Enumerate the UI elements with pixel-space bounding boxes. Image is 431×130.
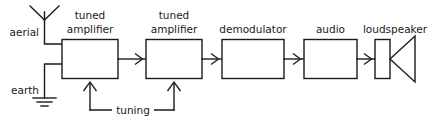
loudspeaker-driver-body bbox=[375, 40, 390, 79]
earth-lead-line bbox=[45, 64, 63, 98]
signal-arrow-4 bbox=[357, 54, 375, 65]
earth-label: earth bbox=[11, 84, 39, 96]
block-demodulator bbox=[222, 40, 284, 79]
block-label-tuned-amplifier-2-line2: amplifier bbox=[151, 23, 198, 35]
aerial-branch-left bbox=[30, 6, 45, 20]
diagram-canvas: aerial earth tuned amplifier tuned ampli… bbox=[0, 0, 431, 130]
block-label-tuned-amplifier-1-line1: tuned bbox=[75, 9, 106, 21]
block-audio bbox=[304, 40, 357, 79]
loudspeaker-cone bbox=[390, 36, 415, 82]
block-tuned-amplifier-1 bbox=[62, 40, 118, 79]
block-label-loudspeaker: loudspeaker bbox=[363, 23, 428, 35]
signal-arrow-1 bbox=[118, 54, 146, 65]
signal-arrow-2 bbox=[202, 54, 222, 65]
aerial-branch-right bbox=[45, 6, 60, 20]
block-tuned-amplifier-2 bbox=[146, 40, 202, 79]
block-loudspeaker bbox=[375, 36, 415, 82]
signal-arrow-3 bbox=[284, 54, 304, 65]
aerial-label: aerial bbox=[10, 26, 39, 38]
block-label-tuned-amplifier-2-line1: tuned bbox=[159, 9, 190, 21]
radio-receiver-block-diagram: aerial earth tuned amplifier tuned ampli… bbox=[0, 0, 431, 130]
block-label-tuned-amplifier-1-line2: amplifier bbox=[67, 23, 114, 35]
block-label-demodulator: demodulator bbox=[219, 23, 287, 35]
tuning-label: tuning bbox=[116, 104, 150, 116]
block-label-audio: audio bbox=[316, 23, 345, 35]
